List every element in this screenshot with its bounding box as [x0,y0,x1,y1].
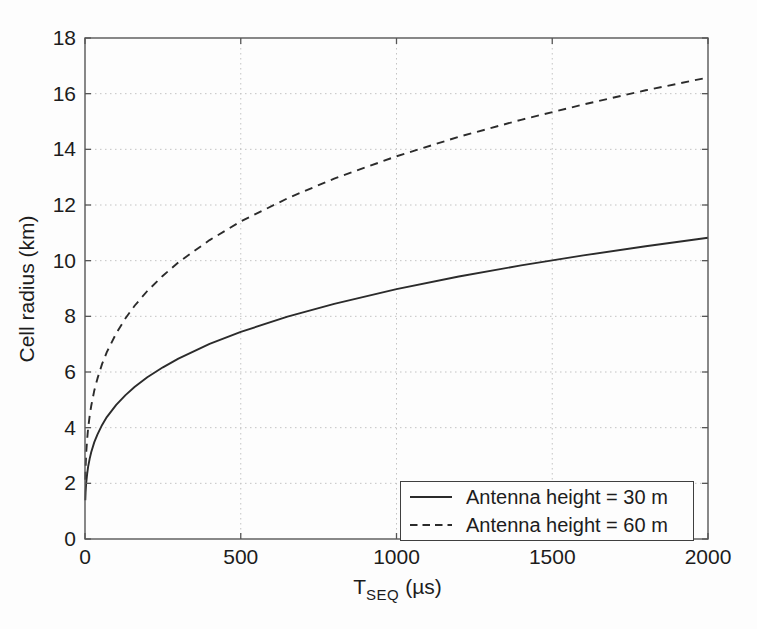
dashed-line-sample [410,523,452,527]
x-tick-label: 2000 [685,545,732,568]
x-tick-label: 0 [79,545,91,568]
y-tick-label: 4 [64,416,76,439]
solid-line-sample [410,495,452,499]
x-tick-label: 500 [223,545,258,568]
legend: Antenna height = 30 m Antenna height = 6… [400,481,694,541]
x-axis-label-subscript: SEQ [366,586,399,603]
y-tick-label: 8 [64,304,76,327]
x-tick-label: 1000 [373,545,420,568]
y-tick-label: 12 [53,193,76,216]
legend-row-30m: Antenna height = 30 m [401,483,693,511]
y-tick-label: 14 [53,137,77,160]
figure: 0500100015002000024681012141618 Cell rad… [0,0,757,629]
y-tick-label: 6 [64,360,76,383]
legend-row-60m: Antenna height = 60 m [401,511,693,539]
y-tick-label: 2 [64,471,76,494]
y-tick-label: 18 [53,26,76,49]
x-tick-label: 1500 [529,545,576,568]
legend-label-30m: Antenna height = 30 m [466,486,668,509]
x-axis-label: TSEQ(µs) [300,572,495,604]
y-tick-label: 16 [53,82,76,105]
x-axis-label-main: T [353,575,366,598]
x-axis-label-unit: (µs) [405,575,442,598]
y-tick-label: 0 [64,527,76,550]
y-tick-label: 10 [53,249,76,272]
y-axis-label: Cell radius (km) [14,169,40,409]
legend-label-60m: Antenna height = 60 m [466,514,668,537]
